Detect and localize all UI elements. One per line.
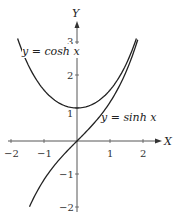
y-tick-label: 2 [67,70,73,81]
x-axis-arrow-icon [155,139,162,144]
chart: −2 −1 1 2 3 2 1 −1 −2 X Y y = cosh x y =… [0,0,176,219]
y-tick-label: −2 [59,202,74,213]
x-tick-label: −1 [37,148,52,159]
x-tick-label: 2 [140,148,146,159]
x-axis-label: X [163,135,173,148]
y-axis-label: Y [72,7,81,20]
y-tick-label: −1 [59,169,74,180]
y-tick-label: 1 [67,108,73,119]
sinh-label: y = sinh x [100,111,157,124]
x-tick-label: 1 [107,148,113,159]
cosh-label: y = cosh x [21,45,80,58]
x-tick-label: −2 [4,148,19,159]
y-axis-arrow-icon [75,21,80,28]
